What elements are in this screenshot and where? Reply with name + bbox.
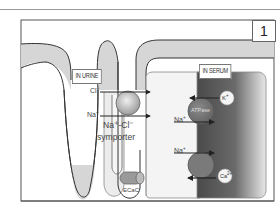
symporter-name-line2: symporter (97, 132, 135, 142)
serum-region-label: IN SERUM (199, 64, 231, 79)
urine-region-label: IN URINE (72, 69, 102, 84)
atpase-label: ATPase (191, 108, 210, 114)
sodium-ion-label-atpase: Na+ (174, 116, 186, 123)
symporter-sphere (116, 91, 140, 115)
panel-number: 1 (252, 20, 276, 42)
ecac-label: ECaC (123, 187, 139, 193)
chloride-ion-label: Cl− (90, 87, 99, 94)
potassium-ion-label: K+ (222, 94, 229, 101)
exchanger (188, 152, 214, 178)
sodium-ion-label-urine: Na+ (87, 111, 99, 118)
sodium-ion-label-exchanger: Na+ (174, 147, 186, 154)
symporter-name-line1: Na⁺-Cl⁻ (103, 120, 134, 130)
nephron-diagram (0, 0, 280, 219)
calcium-ion-label: Ca2+ (220, 172, 232, 179)
